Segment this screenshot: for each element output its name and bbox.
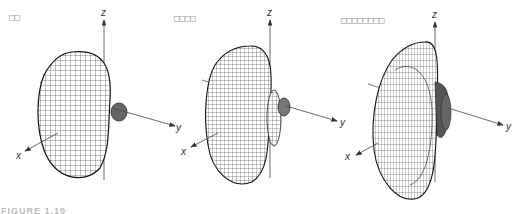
- figure-caption-partial: FIGURE 1.10: [1, 206, 66, 214]
- panel-2-z-label: z: [267, 7, 272, 18]
- panel-2-y-label: y: [340, 117, 345, 128]
- main-lobe: [373, 42, 438, 199]
- side-lobe-1: [267, 90, 281, 146]
- panel-1-label: □□: [9, 12, 20, 22]
- y-axis: [286, 106, 337, 121]
- panel-3-z-label: z: [432, 9, 437, 20]
- panel-2-x-label: x: [181, 146, 186, 157]
- side-lobe: [441, 94, 451, 130]
- panel-3: [356, 22, 503, 199]
- panel-1-y-label: y: [176, 122, 181, 133]
- panel-1-z-label: z: [101, 7, 106, 18]
- panel-1-x-label: x: [16, 150, 21, 161]
- panel-3-y-label: y: [506, 121, 511, 132]
- main-lobe: [206, 46, 272, 184]
- panel-1: [25, 20, 175, 180]
- panel-3-x-label: x: [345, 151, 350, 162]
- main-lobe: [38, 52, 110, 178]
- panel-3-label: □□□□□□□□: [341, 15, 384, 25]
- panel-2: [191, 20, 337, 184]
- figure-canvas: [0, 0, 527, 214]
- panel-2-label: □□□□: [174, 13, 196, 23]
- radiation-pattern-figure: □□ □□□□ □□□□□□□□ z y x z y x z y x FIGUR…: [0, 0, 527, 214]
- y-axis: [448, 108, 503, 125]
